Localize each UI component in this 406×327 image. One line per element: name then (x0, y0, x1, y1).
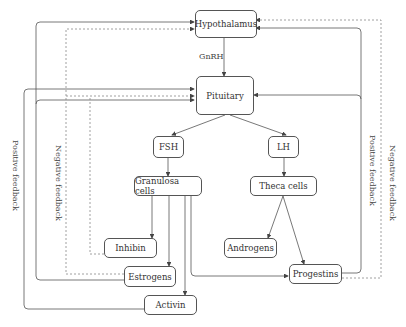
node-granulosa-cells: Granulosa cells (134, 176, 202, 196)
node-activin: Activin (144, 295, 197, 315)
node-fsh: FSH (153, 136, 184, 158)
node-pituitary: Pituitary (196, 76, 254, 115)
node-lh: LH (268, 136, 299, 158)
node-hypothalamus: Hypothalamus (195, 10, 257, 38)
label-positive-feedback-right: Positive feedback (368, 135, 377, 206)
node-theca-cells: Theca cells (250, 176, 317, 196)
label-gnrh: GnRH (199, 52, 224, 61)
label-positive-feedback-left: Positive feedback (11, 140, 20, 211)
label-negative-feedback-left: Negative feedback (54, 145, 63, 221)
node-estrogens: Estrogens (124, 266, 176, 287)
node-inhibin: Inhibin (104, 238, 157, 258)
node-progestins: Progestins (289, 264, 342, 284)
node-androgens: Androgens (224, 238, 277, 258)
label-negative-feedback-right: Negative feedback (388, 145, 397, 221)
